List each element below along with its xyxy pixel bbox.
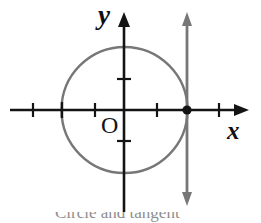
figure-canvas bbox=[0, 0, 261, 223]
tangency-point bbox=[182, 105, 191, 114]
x-axis-arrowhead bbox=[234, 104, 249, 116]
x-axis bbox=[10, 102, 249, 118]
bottom-clipped-caption-text: Circle and tangent bbox=[55, 212, 180, 223]
tangent-arrowhead-up bbox=[182, 12, 192, 26]
y-axis bbox=[117, 12, 131, 212]
x-axis-label: x bbox=[227, 118, 240, 143]
y-axis-label: y bbox=[98, 2, 110, 29]
geometry-figure: y x O Circle and tangent bbox=[0, 0, 261, 223]
y-axis-arrowhead bbox=[118, 12, 130, 27]
bottom-clipped-caption: Circle and tangent bbox=[0, 212, 261, 223]
origin-label: O bbox=[101, 113, 118, 137]
tangent-arrowhead-down bbox=[182, 192, 192, 206]
